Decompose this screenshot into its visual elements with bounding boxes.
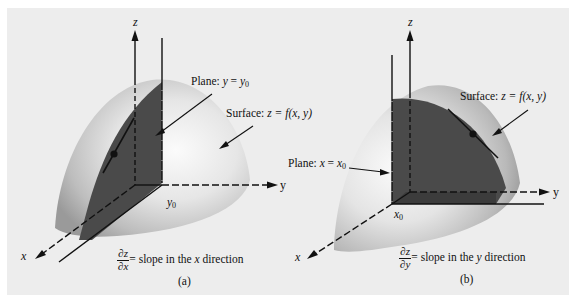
z-axis-label: z — [408, 16, 413, 28]
x-axis-arrow-icon — [307, 250, 318, 259]
y-axis-arrow-icon — [539, 189, 550, 196]
x-axis-label: x — [295, 251, 300, 263]
surface-label: Surface: z = f(x, y) — [460, 91, 546, 103]
x-axis-arrow-icon — [35, 250, 46, 259]
caption-a: (a) — [178, 276, 191, 288]
slope-label: ∂z∂x= slope in the x direction — [117, 248, 243, 272]
z-axis-arrow-icon — [407, 30, 414, 41]
x0-tick-label: x0 — [394, 209, 403, 222]
plane-label: Plane: x = x0 — [288, 158, 346, 171]
x-axis-label: x — [21, 250, 26, 262]
panel-b: z y x x0 Plane: x = x0 Surface: z = f(x,… — [288, 8, 569, 295]
tangent-point — [110, 150, 117, 157]
y-axis-label: y — [553, 186, 559, 198]
y0-tick-label: y0 — [167, 197, 176, 210]
tangent-point — [469, 130, 476, 137]
panel-a: z y x y0 Plane: y = y0 Surface: z = f(x,… — [7, 8, 288, 295]
z-axis-label: z — [133, 16, 138, 28]
y-axis-label: y — [280, 179, 286, 191]
slope-label: ∂z∂y= slope in the y direction — [399, 246, 525, 270]
plane-label: Plane: y = y0 — [191, 76, 249, 89]
z-axis-arrow-icon — [132, 30, 139, 41]
figure: z y x y0 Plane: y = y0 Surface: z = f(x,… — [7, 8, 569, 295]
y-axis-arrow-icon — [267, 182, 278, 189]
caption-b: (b) — [460, 274, 473, 286]
